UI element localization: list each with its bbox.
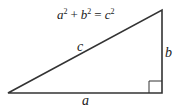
right-angle-marker	[149, 81, 162, 93]
pythagorean-diagram: a2+b2=c2 c a b	[0, 0, 174, 112]
label-height: b	[165, 45, 172, 60]
label-base: a	[82, 93, 89, 108]
equation: a2+b2=c2	[57, 7, 114, 22]
label-hypotenuse: c	[77, 39, 84, 54]
right-triangle	[8, 10, 162, 93]
triangle-figure: a2+b2=c2 c a b	[0, 0, 174, 112]
